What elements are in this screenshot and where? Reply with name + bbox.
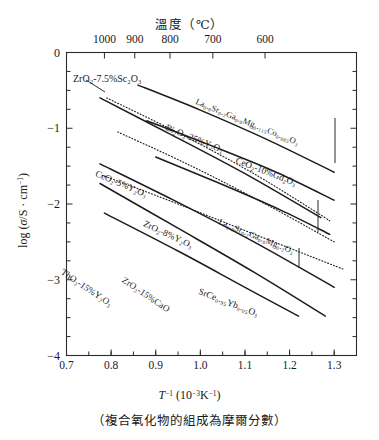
- y-tick-neg4: −4: [34, 348, 60, 363]
- y-tick-neg1: −1: [34, 121, 60, 136]
- left-axis-ticks: [67, 71, 73, 336]
- x-tick-0.7: 0.7: [59, 359, 73, 371]
- top-axis-ticks: [104, 53, 265, 59]
- curve-label-ZrO2-7.5%Sc2O3: ZrO₂-7.5%Sc₂O₃: [73, 73, 142, 84]
- plot-canvas: [0, 0, 379, 440]
- x-tick-1.3: 1.3: [327, 359, 341, 371]
- y-tick-0: 0: [34, 45, 60, 60]
- x-tick-0.9: 0.9: [149, 359, 163, 371]
- figure-caption: （複合氧化物的組成為摩爾分數）: [0, 410, 379, 429]
- y-tick-neg3: −3: [34, 272, 60, 287]
- temperature-tick-800: 800: [161, 33, 178, 45]
- y-axis-label: log (σ/S · cm−1): [16, 141, 31, 281]
- x-tick-1.0: 1.0: [193, 359, 207, 371]
- temperature-tick-1000: 1000: [93, 33, 116, 45]
- plot-frame: [67, 53, 357, 356]
- x-tick-1.1: 1.1: [238, 359, 252, 371]
- y-tick-neg2: −2: [34, 197, 60, 212]
- x-tick-1.2: 1.2: [282, 359, 296, 371]
- temperature-tick-600: 600: [256, 33, 273, 45]
- conductivity-arrhenius-figure: 溫度（℃） 1000900800700600 0.70.80.91.01.11.…: [0, 0, 379, 440]
- curve-La0.8Sr0.2Ga0.8Mg0.2O3: [156, 157, 330, 234]
- curve-ThO2-15%Y2O3: [104, 213, 298, 316]
- x-axis-label: T−1 (10−3K−1): [0, 388, 379, 403]
- temperature-tick-900: 900: [126, 33, 143, 45]
- temperature-tick-700: 700: [204, 33, 221, 45]
- x-tick-0.8: 0.8: [104, 359, 118, 371]
- right-axis-ticks: [351, 71, 357, 336]
- curve-ZrO2-7.5%Sc2O3: [100, 98, 321, 218]
- bottom-axis-ticks: [67, 350, 335, 356]
